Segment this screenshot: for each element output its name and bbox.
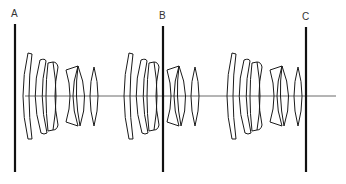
label-c: C [302, 12, 309, 22]
label-a: A [11, 9, 18, 19]
label-b: B [159, 11, 166, 21]
lens-diagram [0, 0, 346, 184]
